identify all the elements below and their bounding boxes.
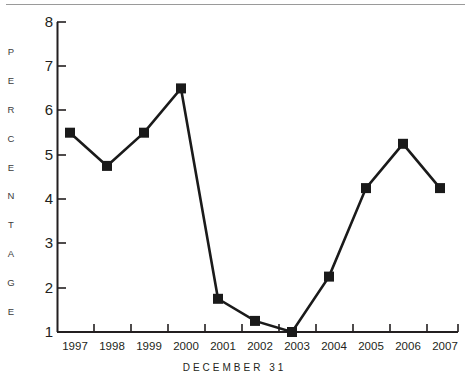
series-line-percentage	[70, 88, 440, 332]
chart-figure: P E R C E N T A G E 8 7 6 5 4 3 2 1	[0, 0, 469, 385]
data-point-marker	[361, 183, 371, 193]
data-point-marker	[139, 128, 149, 138]
data-point-marker	[250, 316, 260, 326]
data-point-marker	[398, 139, 408, 149]
x-axis-title: DECEMBER 31	[0, 362, 469, 373]
data-point-marker	[65, 128, 75, 138]
data-point-marker	[213, 294, 223, 304]
data-point-marker	[435, 183, 445, 193]
data-point-marker	[176, 83, 186, 93]
series-markers-percentage	[65, 83, 445, 337]
x-tick-label: 2007	[421, 340, 469, 352]
data-point-marker	[324, 272, 334, 282]
data-point-marker	[102, 161, 112, 171]
data-point-marker	[287, 327, 297, 337]
plot-area	[0, 0, 469, 385]
